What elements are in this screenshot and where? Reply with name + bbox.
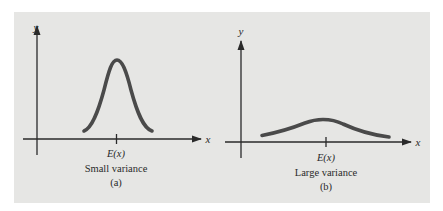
panel-b-caption: Large variance: [295, 167, 358, 178]
panel-b-x-label: x: [415, 136, 421, 148]
panel-a-narrow-bell-curve: [84, 60, 152, 131]
panel-a-x-label: x: [205, 133, 211, 145]
variance-comparison-figure: y x E(x) Small variance (a) y x E(x) Lar…: [0, 0, 443, 211]
panel-b-sublabel: (b): [320, 181, 333, 193]
panel-a-small-variance: y x E(x) Small variance (a): [23, 21, 211, 189]
panel-a-mean-label: E(x): [106, 148, 126, 160]
panel-b-y-label: y: [238, 25, 244, 37]
panel-b-wide-bell-curve: [262, 120, 389, 138]
panel-b-mean-label: E(x): [316, 152, 336, 164]
panel-a-caption: Small variance: [85, 163, 148, 174]
panel-b-large-variance: y x E(x) Large variance (b): [225, 25, 421, 193]
panel-a-sublabel: (a): [110, 177, 122, 189]
panel-a-y-label: y: [33, 21, 39, 33]
